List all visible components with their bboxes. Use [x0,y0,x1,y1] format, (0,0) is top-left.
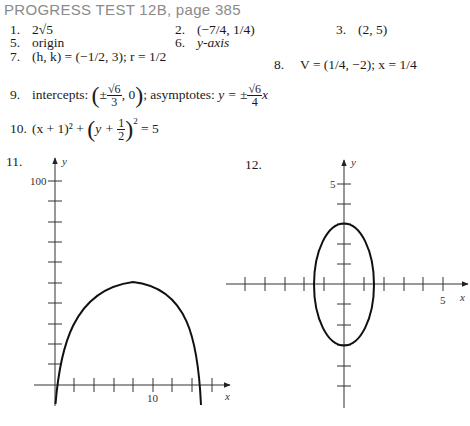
y-tick-label-5: 5 [330,178,336,190]
x-axis-label: x [459,291,465,303]
x-axis-label: x [224,390,230,402]
y-axis-label: y [350,156,356,168]
graph-11 [34,158,230,406]
x-tick-label-5: 5 [440,294,446,306]
x-tick-label-10: 10 [147,392,159,404]
parabola-curve [56,282,202,405]
graphs: 100 10 y x [0,0,470,426]
graph-12 [226,160,468,408]
y-tick-label-100: 100 [30,175,47,187]
y-axis-label: y [61,155,67,167]
